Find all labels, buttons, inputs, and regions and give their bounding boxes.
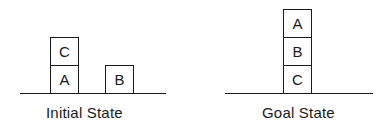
goal-state-panel: A B C Goal State <box>0 0 385 129</box>
table-surface-line <box>225 93 373 94</box>
block-b: B <box>283 37 312 66</box>
block-a: A <box>283 9 312 38</box>
goal-state-caption: Goal State <box>262 105 335 120</box>
block-c: C <box>283 65 312 94</box>
